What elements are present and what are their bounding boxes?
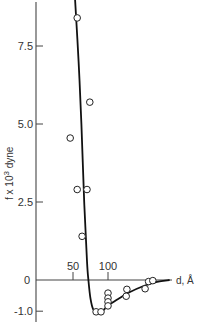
y-axis-ticks: -1.002.55.07.5 — [14, 40, 43, 317]
y-tick-label: 0 — [24, 274, 30, 286]
data-point — [84, 186, 91, 193]
data-point — [87, 99, 94, 106]
fitted-curve — [75, 0, 170, 313]
x-tick-label: 100 — [99, 260, 117, 272]
y-axis-label-text: f x 103 dyne — [2, 146, 15, 200]
data-point — [79, 233, 86, 240]
data-point — [74, 186, 81, 193]
y-tick-label: -1.0 — [14, 305, 33, 317]
x-axis-ticks: 50100 — [67, 260, 117, 280]
y-tick-label: 7.5 — [18, 40, 33, 52]
data-point — [123, 293, 130, 300]
fitted-curve-line — [75, 0, 170, 313]
y-axis-label: f x 103 dyne — [2, 146, 15, 200]
data-point — [98, 309, 105, 316]
data-point — [74, 15, 81, 22]
data-point — [150, 277, 157, 284]
x-axis-label-text: d, Å — [176, 274, 194, 286]
y-tick-label: 2.5 — [18, 196, 33, 208]
y-tick-label: 5.0 — [18, 118, 33, 130]
x-axis-label: d, Å — [176, 274, 194, 286]
data-point — [124, 286, 131, 293]
x-tick-label: 50 — [67, 260, 79, 272]
force-distance-chart: -1.002.55.07.5 50100 f x 103 dyne d, Å — [0, 0, 219, 328]
data-point — [67, 135, 74, 142]
data-point — [105, 303, 112, 310]
data-point — [142, 285, 149, 292]
